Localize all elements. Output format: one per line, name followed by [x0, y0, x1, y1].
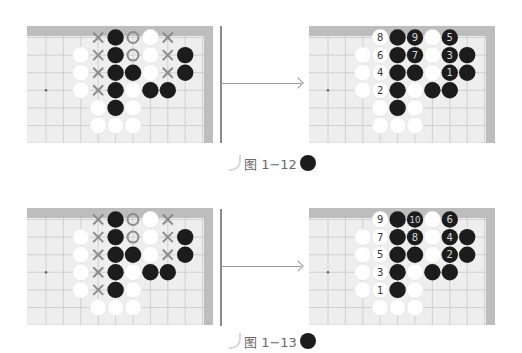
black-stone: 10	[407, 211, 423, 227]
move-number: 1	[377, 285, 383, 296]
move-number: 1	[447, 67, 453, 78]
white-stone	[424, 229, 440, 245]
black-stone	[107, 82, 123, 98]
white-stone	[372, 117, 388, 133]
board-fig13-before	[27, 208, 213, 325]
white-stone	[125, 82, 141, 98]
black-stone	[389, 47, 405, 63]
black-stone	[442, 82, 458, 98]
black-stone	[389, 65, 405, 81]
white-stone	[407, 299, 423, 315]
black-stone	[142, 264, 158, 280]
white-stone	[424, 211, 440, 227]
white-stone	[407, 264, 423, 280]
black-stone: 2	[442, 247, 458, 263]
black-stone	[107, 282, 123, 298]
black-stone	[107, 65, 123, 81]
black-stone	[424, 264, 440, 280]
black-stone	[389, 282, 405, 298]
white-stone: 4	[372, 65, 388, 81]
move-number: 6	[377, 50, 383, 61]
move-number: 10	[410, 215, 421, 225]
white-stone	[107, 117, 123, 133]
move-number: 3	[447, 50, 453, 61]
white-stone	[355, 82, 371, 98]
white-stone	[355, 282, 371, 298]
black-stone	[107, 247, 123, 263]
white-stone	[73, 247, 89, 263]
white-stone	[125, 117, 141, 133]
move-number: 7	[412, 50, 418, 61]
black-stone	[177, 47, 193, 63]
white-stone: 8	[372, 29, 388, 45]
black-stone	[107, 211, 123, 227]
caption-black-dot-icon	[300, 155, 316, 171]
move-number: 4	[447, 232, 453, 243]
arrowhead-icon	[292, 77, 303, 88]
black-stone: 8	[407, 229, 423, 245]
white-stone	[73, 264, 89, 280]
figure-caption-fig13: 图 1−13	[229, 332, 316, 350]
black-stone	[389, 264, 405, 280]
caption-swoosh-icon	[229, 333, 241, 349]
move-number: 7	[377, 232, 383, 243]
white-stone	[73, 65, 89, 81]
caption-text: 图 1−12	[244, 154, 297, 173]
move-number: 8	[377, 32, 383, 43]
black-stone	[442, 264, 458, 280]
white-stone	[372, 100, 388, 116]
black-stone	[160, 264, 176, 280]
white-stone	[90, 299, 106, 315]
black-stone	[142, 82, 158, 98]
black-stone	[407, 65, 423, 81]
white-stone	[407, 82, 423, 98]
white-stone	[407, 100, 423, 116]
board-fig12-after-svg: 895673412	[309, 26, 495, 143]
black-stone	[389, 29, 405, 45]
white-stone	[355, 264, 371, 280]
black-stone	[389, 100, 405, 116]
arrow-line-fig13	[222, 266, 301, 267]
white-stone	[142, 29, 158, 45]
board-fig13-after-svg: 91067845231	[309, 208, 495, 325]
black-stone	[107, 264, 123, 280]
white-stone	[355, 47, 371, 63]
figure-caption-fig12: 图 1−12	[229, 154, 316, 172]
black-stone: 9	[407, 29, 423, 45]
black-stone	[107, 47, 123, 63]
black-stone: 1	[442, 65, 458, 81]
black-stone	[107, 100, 123, 116]
black-stone	[424, 82, 440, 98]
black-stone	[107, 29, 123, 45]
board-fig13-before-svg	[27, 208, 213, 325]
white-stone	[73, 229, 89, 245]
black-stone	[459, 47, 475, 63]
black-stone	[177, 229, 193, 245]
white-stone	[407, 282, 423, 298]
white-stone: 1	[372, 282, 388, 298]
white-stone: 5	[372, 247, 388, 263]
white-stone	[424, 247, 440, 263]
caption-text: 图 1−13	[244, 332, 297, 351]
caption-swoosh-icon	[229, 155, 241, 171]
black-stone	[177, 65, 193, 81]
white-stone	[73, 282, 89, 298]
white-stone	[125, 299, 141, 315]
divider-line-fig12	[220, 26, 222, 143]
white-stone	[142, 65, 158, 81]
black-stone	[459, 65, 475, 81]
white-stone: 7	[372, 229, 388, 245]
board-fig12-before	[27, 26, 213, 143]
black-stone: 4	[442, 229, 458, 245]
white-stone	[389, 299, 405, 315]
black-stone	[160, 82, 176, 98]
move-number: 2	[377, 85, 383, 96]
move-number: 2	[447, 249, 453, 260]
black-stone	[125, 247, 141, 263]
black-stone	[459, 229, 475, 245]
board-fig13-after: 91067845231	[309, 208, 495, 325]
arrowhead-icon	[292, 260, 303, 271]
white-stone	[424, 47, 440, 63]
white-stone	[107, 299, 123, 315]
white-stone: 2	[372, 82, 388, 98]
